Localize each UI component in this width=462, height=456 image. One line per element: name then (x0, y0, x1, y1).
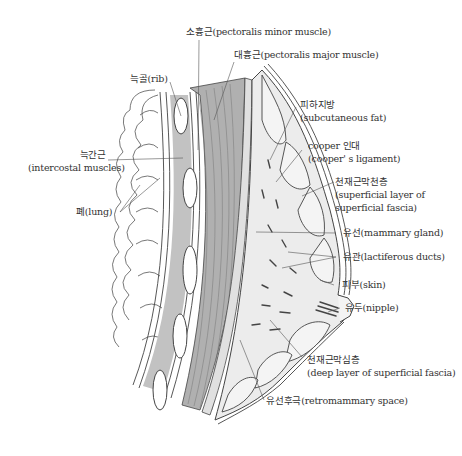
label-skin: 피부(skin) (342, 278, 386, 291)
label-deep-en: (deep layer of superficial fascia) (307, 366, 456, 379)
label-subcutaneous-en: (subcutaneous fat) (300, 111, 386, 124)
label-cooper-en: (cooper' s ligament) (308, 152, 400, 165)
label-intercostal-en: (intercostal muscles) (28, 161, 112, 174)
lung-illustration (112, 90, 162, 347)
label-subcutaneous-ko: 피하지방 (300, 98, 386, 111)
label-superficial-en2: superficial fascia) (335, 201, 425, 214)
label-nipple: 유두(nipple) (345, 301, 398, 314)
label-intercostal-ko: 늑간근 (28, 148, 112, 161)
label-superficial-en1: (superficial layer of (335, 188, 425, 201)
label-deep-ko: 천재근막심층 (307, 353, 456, 366)
label-lactiferous-ducts: 유관(lactiferous ducts) (343, 250, 445, 263)
label-cooper-ligament: cooper 인대 (cooper' s ligament) (308, 139, 400, 165)
label-mammary-gland: 유선(mammary gland) (343, 226, 443, 239)
label-intercostal: 늑간근 (intercostal muscles) (28, 148, 112, 174)
label-retromammary-space: 유선후극(retromammary space) (266, 394, 408, 407)
label-lung: 폐(lung) (76, 205, 112, 218)
label-subcutaneous-fat: 피하지방 (subcutaneous fat) (300, 98, 386, 124)
label-cooper-ko: cooper 인대 (308, 139, 400, 152)
label-pectoralis-minor: 소흉근(pectoralis minor muscle) (186, 25, 331, 38)
label-superficial-ko: 천재근막천층 (335, 175, 425, 188)
label-superficial-fascia: 천재근막천층 (superficial layer of superficial… (335, 175, 425, 214)
label-pectoralis-major: 대흉근(pectoralis major muscle) (234, 48, 378, 61)
label-deep-fascia: 천재근막심층 (deep layer of superficial fascia… (307, 353, 456, 379)
label-rib: 늑골(rib) (130, 72, 168, 85)
